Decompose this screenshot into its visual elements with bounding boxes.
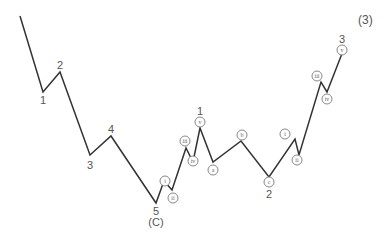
subwave-label-17: ii xyxy=(292,155,303,166)
subwave-label-14: c xyxy=(264,177,275,188)
subwave-label-20: v xyxy=(337,45,348,56)
subwave-label-10: v xyxy=(195,117,206,128)
degree-label: (3) xyxy=(358,13,373,27)
wave-label-2: 3 xyxy=(87,160,93,171)
subwave-label-18: iii xyxy=(312,71,323,82)
wave-label-5: (C) xyxy=(148,217,163,228)
subwave-label-6: i xyxy=(160,176,171,187)
wave-label-3: 4 xyxy=(108,124,114,135)
wave-label-15: 2 xyxy=(266,189,272,200)
subwave-label-13: b xyxy=(237,130,248,141)
subwave-label-8: iii xyxy=(180,136,191,147)
wave-label-1: 2 xyxy=(57,60,63,71)
wave-line xyxy=(20,16,343,203)
wave-label-11: 1 xyxy=(197,106,203,117)
subwave-label-16: i xyxy=(280,129,291,140)
wave-label-21: 3 xyxy=(339,34,345,45)
subwave-label-19: iv xyxy=(322,94,333,105)
subwave-label-12: a xyxy=(208,165,219,176)
wave-label-0: 1 xyxy=(40,95,46,106)
wave-diagram xyxy=(0,0,387,239)
subwave-label-9: iv xyxy=(188,156,199,167)
subwave-label-7: ii xyxy=(168,193,179,204)
